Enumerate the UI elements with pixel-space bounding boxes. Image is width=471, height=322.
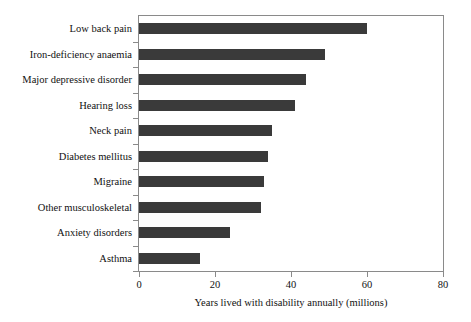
y-axis-tick	[133, 67, 138, 68]
category-label: Hearing loss	[0, 100, 132, 111]
y-axis-tick	[133, 42, 138, 43]
bar	[139, 151, 268, 162]
x-axis-tick-label: 40	[271, 279, 311, 291]
category-label: Major depressive disorder	[0, 74, 132, 85]
bar	[139, 49, 325, 60]
y-axis-tick	[133, 195, 138, 196]
x-axis-tick	[139, 272, 140, 277]
category-label: Low back pain	[0, 23, 132, 34]
y-axis-tick	[133, 169, 138, 170]
category-label: Iron-deficiency anaemia	[0, 49, 132, 60]
x-axis-tick-label: 0	[119, 279, 159, 291]
y-axis-tick	[133, 93, 138, 94]
y-axis-tick	[133, 144, 138, 145]
category-label: Anxiety disorders	[0, 227, 132, 238]
x-axis-tick-label: 20	[195, 279, 235, 291]
bar	[139, 23, 367, 34]
x-axis-tick	[367, 272, 368, 277]
bar	[139, 74, 306, 85]
bar	[139, 202, 261, 213]
horizontal-bar-chart: Low back painIron-deficiency anaemiaMajo…	[0, 0, 471, 322]
bar	[139, 125, 272, 136]
bar	[139, 253, 200, 264]
bar	[139, 176, 264, 187]
bar	[139, 227, 230, 238]
x-axis-tick-label: 60	[347, 279, 387, 291]
y-axis-tick	[133, 118, 138, 119]
x-axis-tick	[291, 272, 292, 277]
bars-layer	[139, 16, 444, 271]
category-label: Other musculoskeletal	[0, 202, 132, 213]
x-axis-title: Years lived with disability annually (mi…	[138, 296, 444, 309]
y-axis-tick	[133, 271, 138, 272]
x-axis-tick-label: 80	[423, 279, 463, 291]
category-axis-labels: Low back painIron-deficiency anaemiaMajo…	[0, 15, 132, 272]
bar	[139, 100, 295, 111]
y-axis-tick	[133, 220, 138, 221]
category-label: Diabetes mellitus	[0, 151, 132, 162]
x-axis-tick	[443, 272, 444, 277]
category-label: Neck pain	[0, 125, 132, 136]
category-label: Asthma	[0, 253, 132, 264]
y-axis-tick	[133, 246, 138, 247]
category-label: Migraine	[0, 176, 132, 187]
x-axis-tick	[215, 272, 216, 277]
